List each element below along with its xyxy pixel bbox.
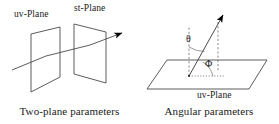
theta-label: θ (186, 33, 191, 44)
origin-point (188, 75, 190, 77)
uv-plane-label: uv-Plane (14, 9, 49, 19)
st-plane-label: st-Plane (74, 3, 105, 13)
ray-parameterization-figure: uv-Plane st-Plane Two-plane parameters (0, 0, 279, 124)
caption-two-plane: Two-plane parameters (0, 105, 139, 117)
uv-plane-label-right: uv-Plane (197, 90, 232, 100)
theta-arc (189, 47, 205, 52)
ray-segment-between-planes (46, 45, 90, 56)
phi-label: Φ (205, 58, 212, 69)
ray-segment-incoming (12, 56, 46, 70)
panel-two-plane: uv-Plane st-Plane Two-plane parameters (0, 0, 139, 124)
caption-angular: Angular parameters (139, 105, 279, 117)
st-plane-quad (74, 24, 106, 83)
panel-angular: θ Φ uv-Plane Angular parameters (139, 0, 279, 124)
uv-plane-quad (31, 27, 60, 92)
